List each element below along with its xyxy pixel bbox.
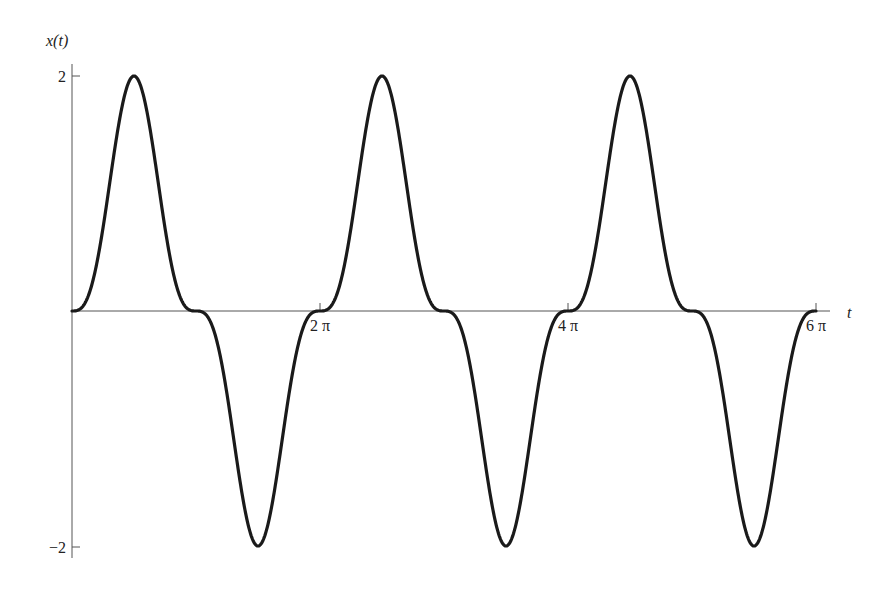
x-axis-label: t	[847, 304, 852, 321]
x-tick-label-4pi: 4 π	[558, 317, 578, 334]
y-tick-label-2: 2	[58, 68, 66, 85]
plot-area: 2 −2 2 π 4 π 6 π x(t) t	[0, 0, 892, 591]
y-axis-label: x(t)	[45, 32, 68, 50]
x-tick-label-2pi: 2 π	[310, 317, 330, 334]
x-tick-label-6pi: 6 π	[806, 317, 826, 334]
y-tick-label-neg2: −2	[49, 539, 66, 556]
